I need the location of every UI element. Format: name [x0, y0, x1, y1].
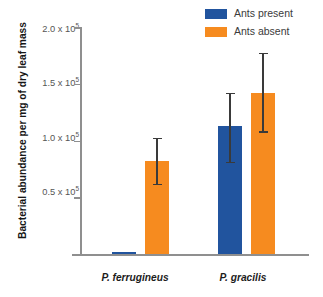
x-category-label-0: P. ferrugineus	[90, 272, 180, 283]
error-bar-cap-lower	[226, 162, 235, 163]
y-axis-tick-1	[74, 141, 80, 143]
bar-pferrugineus-ants-present	[112, 252, 136, 254]
x-axis-line	[72, 254, 309, 256]
legend-swatch-ants-present	[205, 9, 227, 19]
error-bar-line	[156, 138, 157, 183]
y-axis-tick-3	[74, 27, 80, 29]
error-bar-cap-upper	[153, 138, 162, 139]
error-bar-line	[229, 93, 230, 162]
y-axis-tick-0	[74, 197, 80, 199]
y-tick-label-0: 0.5 x 105	[42, 186, 79, 197]
error-bar-cap-upper	[259, 53, 268, 54]
plot-area	[80, 27, 309, 254]
error-bar-cap-upper	[226, 93, 235, 94]
bar-chart: Ants present Ants absent Bacterial abund…	[0, 0, 323, 297]
error-bar-cap-lower	[153, 184, 162, 185]
error-bar-line	[262, 53, 263, 131]
legend-label-ants-present: Ants present	[234, 8, 293, 19]
legend-item-ants-present: Ants present	[205, 6, 293, 21]
y-axis-title: Bacterial abundance per mg of dry leaf m…	[17, 17, 28, 245]
y-axis-tick-2	[74, 84, 80, 86]
y-tick-label-2: 1.5 x 105	[42, 77, 79, 88]
x-category-label-1: P. gracilis	[198, 272, 288, 283]
error-bar-cap-lower	[259, 131, 268, 132]
y-axis-line	[80, 27, 82, 254]
y-tick-label-3: 2.0 x 105	[42, 23, 79, 34]
